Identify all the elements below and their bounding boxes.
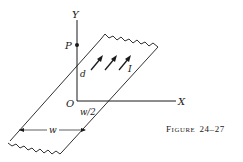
strip-right-edge (62, 47, 158, 152)
origin-label: O (66, 98, 74, 109)
arrow-icon (91, 55, 103, 70)
arrow-icon (105, 55, 117, 70)
width-label: w (49, 125, 57, 135)
caption-smallcaps: IGURE (172, 126, 196, 133)
point-p-label: P (64, 40, 72, 51)
distance-label: d (80, 69, 86, 79)
caption-number: 24–27 (199, 124, 225, 134)
half-width-label: w/2 (80, 107, 96, 117)
y-axis-label: Y (72, 9, 80, 20)
strip-bottom-break (8, 143, 62, 154)
figure-canvas: Y X P O d w/2 w I FIGURE24–27 (0, 0, 243, 162)
current-label: I (127, 63, 132, 74)
point-p-dot (75, 43, 79, 47)
current-arrows (91, 55, 131, 70)
strip-top-break (101, 34, 158, 47)
x-axis-label: X (177, 96, 186, 107)
figure-caption: FIGURE24–27 (166, 124, 225, 134)
conducting-strip (8, 34, 158, 154)
